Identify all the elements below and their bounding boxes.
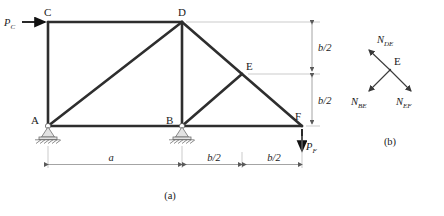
member-AD — [48, 22, 182, 126]
dim-b2-h1-label: b/2 — [207, 152, 221, 163]
node-label-D: D — [178, 6, 186, 18]
load-pf: PF — [302, 129, 317, 155]
load-pf-label: PF — [305, 141, 317, 155]
node-label-E: E — [246, 60, 253, 72]
vertical-dimensions: b/2 b/2 — [186, 22, 332, 126]
support-b-body — [176, 127, 189, 137]
load-pc-label: PC — [3, 17, 15, 31]
fbd-joint-label: E — [394, 55, 401, 67]
node-label-A: A — [31, 114, 39, 126]
fbd-force-ef-arrow — [390, 70, 411, 91]
member-DE — [182, 22, 242, 74]
dim-a-label: a — [108, 152, 113, 163]
support-a-body — [42, 127, 55, 137]
fbd-force-de-arrow — [369, 50, 390, 70]
fbd-force-be-arrow — [369, 70, 390, 91]
support-a-base — [39, 137, 57, 140]
dim-b2-h2-label: b/2 — [267, 152, 281, 163]
node-label-C: C — [44, 6, 51, 18]
node-labels: C D E F — [44, 6, 301, 122]
support-b-hatching — [169, 140, 195, 144]
fbd-force-ef-label: NEF — [395, 96, 412, 110]
fbd-force-be-label: NBE — [350, 96, 367, 110]
fbd-force-de-label: NDE — [376, 34, 394, 48]
free-body-diagram: NDE NBE NEF E — [350, 34, 412, 110]
dim-b2-v2-label: b/2 — [318, 95, 332, 106]
horizontal-dimensions: a b/2 b/2 — [48, 136, 302, 168]
support-a-hatching — [35, 140, 61, 144]
dim-b2-v1-label: b/2 — [318, 42, 332, 53]
caption-a: (a) — [164, 190, 176, 202]
member-EF — [242, 74, 302, 126]
member-BE — [182, 74, 242, 126]
load-pc: PC — [3, 17, 45, 31]
node-label-F: F — [295, 110, 301, 122]
support-b-base — [173, 137, 191, 140]
caption-b: (b) — [384, 136, 397, 148]
node-label-B: B — [166, 114, 173, 126]
figure-canvas: A B C D E F PC PF — [0, 0, 444, 216]
